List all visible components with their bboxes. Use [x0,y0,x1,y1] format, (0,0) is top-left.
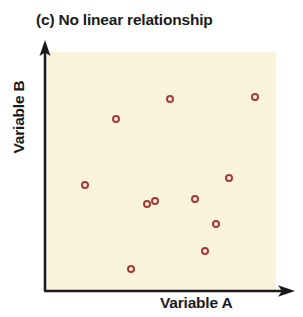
scatter-plot-figure: (c) No linear relationship Variable B Va… [0,0,303,317]
data-point [191,195,199,203]
data-point [166,95,174,103]
data-point [251,93,259,101]
data-point [151,197,159,205]
data-point [143,200,151,208]
data-point [201,247,209,255]
x-axis-label: Variable A [160,294,232,312]
page-title: (c) No linear relationship [36,11,213,28]
x-axis-arrow-icon [278,285,295,297]
data-point [81,181,89,189]
y-axis-label: Variable B [10,62,28,172]
data-point [225,174,233,182]
data-point [212,220,220,228]
data-point [112,115,120,123]
plot-area [47,52,276,290]
data-point [127,265,135,273]
